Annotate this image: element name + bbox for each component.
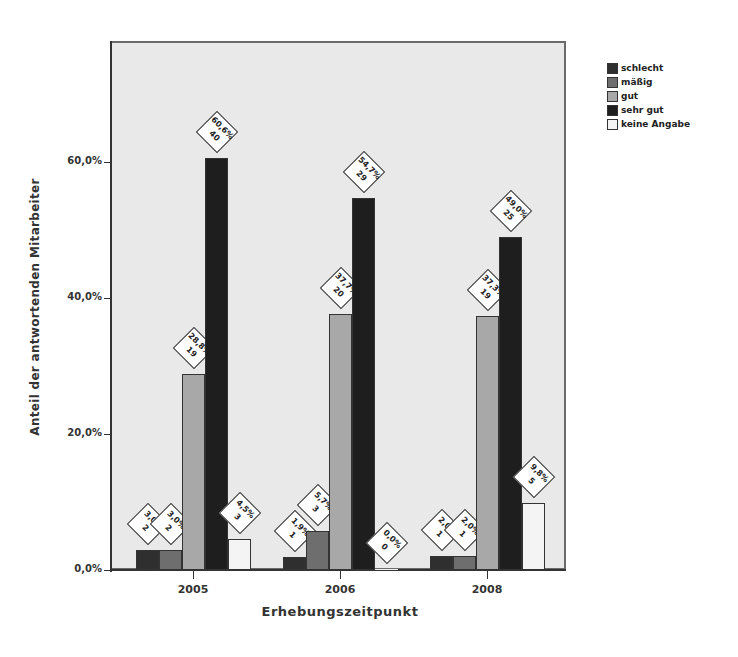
- x-tick: [340, 571, 341, 579]
- y-tick: [104, 570, 111, 571]
- legend-swatch: [607, 91, 618, 102]
- bar-2006-mäßig: [306, 531, 329, 570]
- legend-item-gut: gut: [607, 89, 690, 103]
- legend: schlecht mäßig gut sehr gut keine Angabe: [607, 61, 690, 131]
- y-tick-label: 0,0%: [42, 563, 102, 574]
- bar-2008-sehr-gut: [499, 237, 522, 570]
- y-tick: [104, 434, 111, 435]
- y-axis-title: Anteil der antwortenden Mitarbeiter: [28, 152, 42, 462]
- x-tick: [193, 571, 194, 579]
- bar-2008-gut: [476, 316, 499, 570]
- legend-label: schlecht: [621, 63, 663, 73]
- y-tick: [104, 162, 111, 163]
- legend-label: keine Angabe: [621, 119, 690, 129]
- bar-2008-keine-Angabe: [522, 503, 545, 570]
- x-tick-label: 2008: [457, 583, 517, 596]
- y-tick: [104, 298, 111, 299]
- bar-2006-sehr-gut: [352, 198, 375, 570]
- legend-swatch: [607, 119, 618, 130]
- x-tick: [487, 571, 488, 579]
- legend-item-sehr-gut: sehr gut: [607, 103, 690, 117]
- legend-swatch: [607, 105, 618, 116]
- y-tick-label: 60,0%: [42, 155, 102, 166]
- bar-2006-schlecht: [283, 557, 306, 570]
- bar-2005-schlecht: [136, 550, 159, 570]
- y-tick-label: 20,0%: [42, 427, 102, 438]
- x-tick-label: 2006: [310, 583, 370, 596]
- legend-swatch: [607, 77, 618, 88]
- x-axis-title: Erhebungszeitpunkt: [210, 604, 470, 619]
- legend-label: mäßig: [621, 77, 652, 87]
- legend-item-schlecht: schlecht: [607, 61, 690, 75]
- x-tick-label: 2005: [163, 583, 223, 596]
- bar-2005-keine-Angabe: [228, 539, 251, 570]
- legend-label: sehr gut: [621, 105, 664, 115]
- bar-2006-gut: [329, 314, 352, 570]
- bar-2005-gut: [182, 374, 205, 570]
- legend-label: gut: [621, 91, 638, 101]
- bar-2008-schlecht: [430, 556, 453, 570]
- legend-item-keine-angabe: keine Angabe: [607, 117, 690, 131]
- bar-2008-mäßig: [453, 556, 476, 570]
- y-tick-label: 40,0%: [42, 291, 102, 302]
- legend-swatch: [607, 63, 618, 74]
- bar-2006-keine-Angabe: [375, 569, 398, 570]
- y-axis-line: [110, 41, 112, 572]
- bar-2005-mäßig: [159, 550, 182, 570]
- legend-item-maessig: mäßig: [607, 75, 690, 89]
